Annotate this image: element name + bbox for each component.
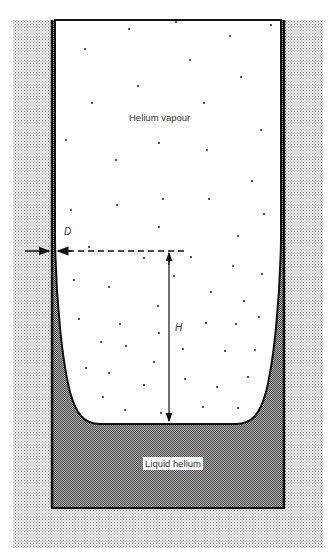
- vapour-space: [55, 20, 281, 424]
- helium-vapour-label: Helium vapour: [129, 112, 190, 123]
- helium-film-diagram: Helium vapour Liquid helium D H: [0, 0, 336, 560]
- liquid-helium-label: Liquid helium: [143, 457, 203, 470]
- diagram-canvas: [0, 0, 336, 560]
- film-thickness-symbol: D: [64, 226, 71, 237]
- height-symbol: H: [175, 322, 182, 333]
